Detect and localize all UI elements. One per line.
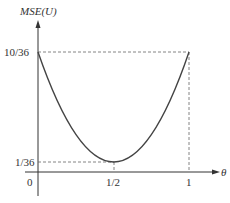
x-axis-arrow-icon	[212, 170, 220, 175]
y-axis-arrow-icon	[36, 20, 41, 28]
x-tick-half: 1/2	[106, 176, 120, 188]
mse-curve	[38, 52, 189, 162]
x-tick-0: 0	[27, 176, 33, 188]
y-tick-10-36: 10/36	[4, 46, 30, 58]
x-tick-1: 1	[186, 176, 192, 188]
x-axis-label: θ	[221, 166, 227, 178]
y-axis-label: MSE(U)	[19, 5, 57, 18]
y-tick-1-36: 1/36	[15, 156, 35, 168]
mse-chart: MSE(U) θ 10/36 1/36 0 1/2 1	[0, 0, 230, 203]
